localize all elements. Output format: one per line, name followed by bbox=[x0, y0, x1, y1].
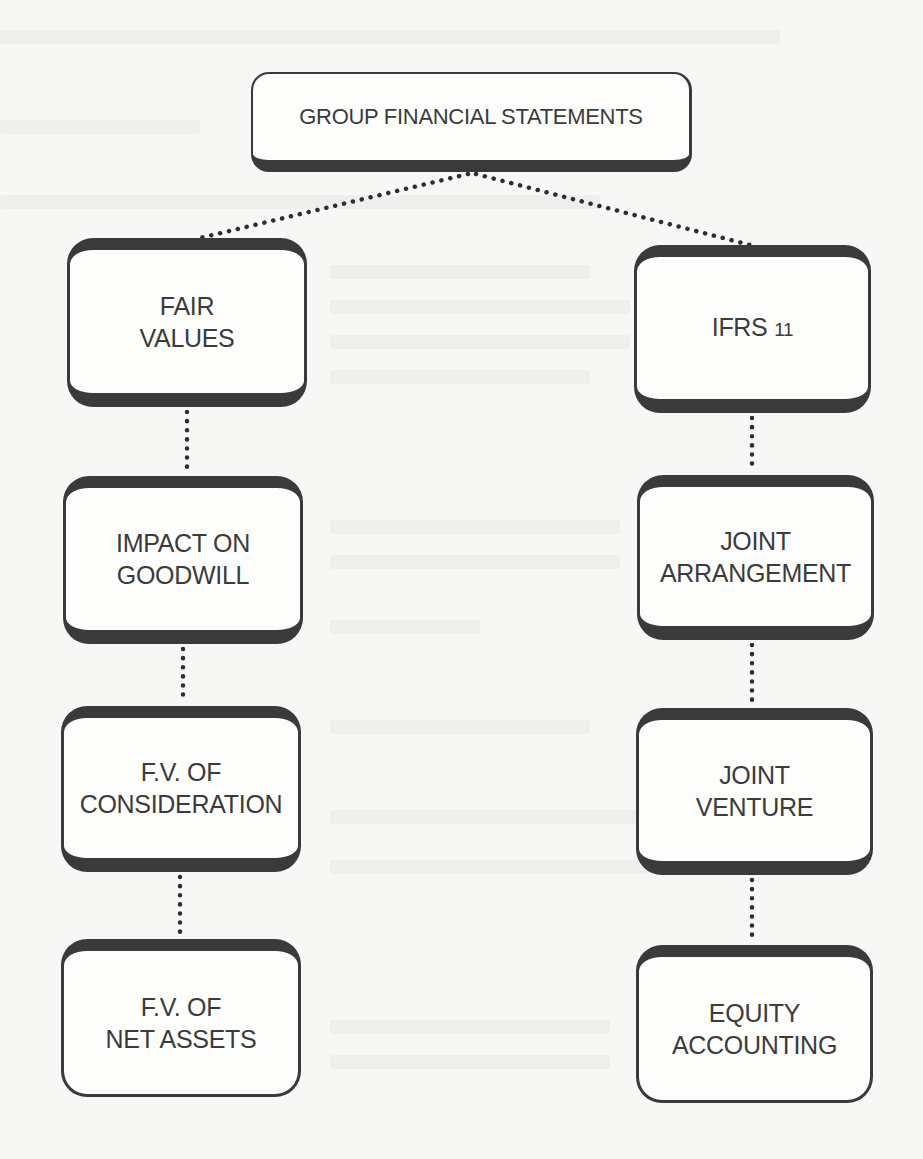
node-label: FAIR VALUES bbox=[139, 290, 234, 354]
edge-root-to-ifrs-11 bbox=[476, 174, 750, 245]
node-fair-values: FAIR VALUES bbox=[67, 238, 307, 407]
node-label: EQUITY ACCOUNTING bbox=[672, 997, 837, 1061]
node-label: IFRS 11 bbox=[712, 311, 794, 346]
node-joint-venture: JOINT VENTURE bbox=[636, 708, 873, 875]
node-label-line2: ACCOUNTING bbox=[672, 1029, 837, 1061]
node-joint-arrangement: JOINT ARRANGEMENT bbox=[637, 475, 874, 640]
node-ifrs-11: IFRS 11 bbox=[634, 245, 871, 413]
node-label-line1: F.V. OF bbox=[80, 756, 283, 788]
node-group-financial-statements: GROUP FINANCIAL STATEMENTS bbox=[251, 72, 692, 172]
node-label-line1: EQUITY bbox=[672, 997, 837, 1029]
node-fv-of-net-assets: F.V. OF NET ASSETS bbox=[61, 939, 301, 1097]
node-label-number: 11 bbox=[774, 319, 793, 340]
node-label-line1: JOINT bbox=[696, 759, 813, 791]
node-label: F.V. OF NET ASSETS bbox=[106, 991, 257, 1055]
edge-root-to-fair-values bbox=[200, 174, 468, 238]
node-label: IMPACT ON GOODWILL bbox=[116, 527, 250, 591]
node-label-line2: NET ASSETS bbox=[106, 1023, 257, 1055]
node-label-line2: VALUES bbox=[139, 322, 234, 354]
node-equity-accounting: EQUITY ACCOUNTING bbox=[636, 945, 873, 1103]
node-impact-on-goodwill: IMPACT ON GOODWILL bbox=[63, 476, 303, 644]
node-label-line1: FAIR bbox=[139, 290, 234, 322]
node-label: GROUP FINANCIAL STATEMENTS bbox=[299, 101, 642, 133]
node-label-line1: JOINT bbox=[660, 525, 851, 557]
node-label-line1: F.V. OF bbox=[106, 991, 257, 1023]
node-label: JOINT VENTURE bbox=[696, 759, 813, 823]
node-label: JOINT ARRANGEMENT bbox=[660, 525, 851, 589]
node-label-line2: ARRANGEMENT bbox=[660, 557, 851, 589]
node-label-line1: IFRS bbox=[712, 313, 768, 341]
node-label: F.V. OF CONSIDERATION bbox=[80, 756, 283, 820]
node-label-line2: CONSIDERATION bbox=[80, 788, 283, 820]
node-label-line2: VENTURE bbox=[696, 791, 813, 823]
node-fv-of-consideration: F.V. OF CONSIDERATION bbox=[61, 706, 301, 872]
node-label-line2: GOODWILL bbox=[116, 559, 250, 591]
node-label-line1: IMPACT ON bbox=[116, 527, 250, 559]
